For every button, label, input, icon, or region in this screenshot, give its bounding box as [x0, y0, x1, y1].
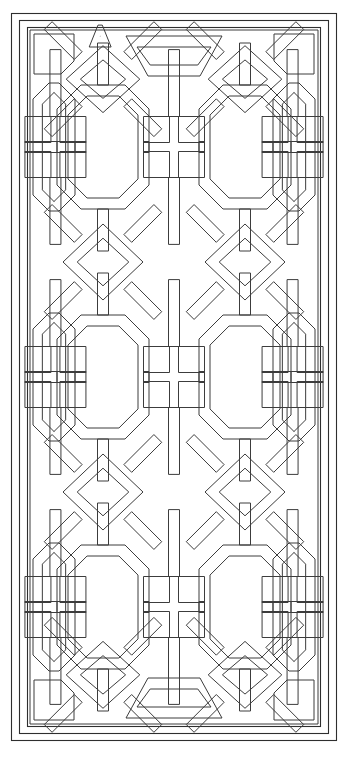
- lattice-panel: [0, 0, 349, 766]
- drawing-canvas: [0, 0, 349, 766]
